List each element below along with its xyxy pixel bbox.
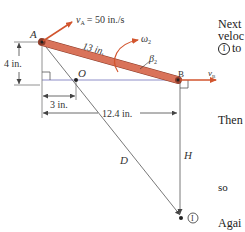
line-d-a-to-i: [42, 42, 180, 215]
label-b: B: [178, 69, 184, 79]
dim-12in-label: 12.4 in.: [102, 108, 132, 119]
pin-b-inner: [177, 79, 180, 82]
label-h: H: [183, 149, 193, 161]
label-d: D: [119, 154, 128, 166]
side-text-again: Agai: [218, 217, 241, 229]
side-text-so: so: [218, 181, 228, 193]
bar-ab: [42, 42, 178, 80]
circled-i-icon: I: [218, 43, 230, 55]
dim-4in-label: 4 in.: [4, 58, 22, 69]
point-i: [179, 216, 183, 220]
velocity-a-label: vA= 50 in./s: [76, 14, 124, 26]
side-text-to: to: [232, 41, 241, 55]
velocity-b-label: vB: [208, 68, 216, 79]
label-i: I: [191, 214, 194, 223]
label-o: O: [78, 67, 86, 79]
side-text-circled-i-line: Ito: [218, 42, 241, 55]
beta-label: β2: [148, 53, 157, 65]
velocity-arrow-a: [43, 22, 72, 41]
label-a: A: [29, 28, 37, 40]
dim-3in-label: 3 in.: [50, 99, 68, 110]
right-angle-marker-a: [42, 72, 50, 80]
side-text-then: Then: [218, 114, 243, 126]
linkage-diagram: 4 in. 3 in. 12.4 in. D H O I A B 13 in. …: [0, 0, 245, 232]
omega-label: ω2: [141, 33, 151, 45]
